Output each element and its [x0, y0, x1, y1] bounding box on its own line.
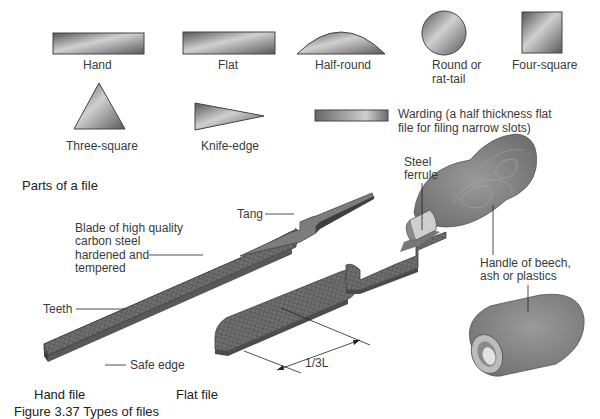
label-hand-file: Hand file	[34, 388, 85, 402]
label-dimension: 1/3L	[305, 356, 328, 370]
label-blade-line1: Blade of high quality	[75, 221, 183, 235]
half-round-section	[297, 32, 385, 54]
label-safe-edge: Safe edge	[130, 358, 185, 372]
label-three-square: Three-square	[66, 139, 138, 153]
label-ferrule-line2: ferrule	[404, 168, 438, 182]
label-round-line2: rat-tail	[432, 72, 465, 86]
label-four-square: Four-square	[512, 58, 577, 72]
figure-caption: Figure 3.37 Types of files	[14, 404, 159, 419]
warding-section	[315, 110, 388, 121]
four-square-section	[522, 12, 562, 53]
flat-section	[183, 32, 275, 54]
file-handle	[406, 134, 537, 240]
label-tang: Tang	[237, 207, 263, 221]
label-warding-line2: file for filing narrow slots)	[398, 121, 531, 135]
round-section	[422, 11, 466, 55]
label-warding-line1: Warding (a half thickness flat	[398, 107, 552, 121]
hand-file	[44, 193, 374, 362]
label-half-round: Half-round	[315, 58, 371, 72]
label-ferrule-line1: Steel	[404, 155, 431, 169]
label-handle-line2: ash or plastics	[480, 269, 557, 283]
label-teeth: Teeth	[43, 302, 72, 316]
label-blade-line2: carbon steel	[75, 234, 140, 248]
parts-title: Parts of a file	[22, 179, 98, 193]
label-knife-edge: Knife-edge	[201, 139, 259, 153]
three-square-section	[74, 83, 125, 129]
label-hand: Hand	[83, 58, 112, 72]
label-blade-line4: tempered	[75, 261, 126, 275]
label-flat: Flat	[218, 58, 238, 72]
label-flat-file: Flat file	[176, 388, 218, 402]
hand-section	[53, 33, 144, 54]
knife-edge-section	[195, 103, 264, 130]
label-handle-line1: Handle of beech,	[480, 256, 571, 270]
label-round-line1: Round or	[432, 58, 481, 72]
label-blade-line3: hardened and	[75, 248, 149, 262]
